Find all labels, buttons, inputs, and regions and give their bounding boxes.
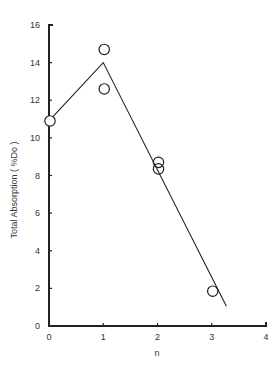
data-point — [208, 286, 218, 296]
data-point — [99, 44, 109, 54]
x-tick-label: 0 — [46, 332, 51, 342]
chart: 0246810121416 01234 n Total Absorption (… — [0, 0, 280, 370]
x-tick-label: 2 — [155, 332, 160, 342]
y-tick-label: 4 — [35, 246, 40, 256]
x-tick-label: 1 — [101, 332, 106, 342]
y-tick-label: 16 — [30, 20, 40, 30]
x-tick-label: 4 — [263, 332, 268, 342]
x-axis-title: n — [154, 348, 159, 358]
data-point — [99, 84, 109, 94]
y-tick-label: 6 — [35, 208, 40, 218]
y-tick-label: 10 — [30, 133, 40, 143]
y-tick-label: 8 — [35, 171, 40, 181]
y-tick-label: 0 — [35, 321, 40, 331]
y-tick-label: 14 — [30, 58, 40, 68]
data-points — [45, 44, 218, 296]
x-tick-label: 3 — [209, 332, 214, 342]
data-point — [45, 116, 55, 126]
y-tick-label: 2 — [35, 283, 40, 293]
fit-line — [49, 63, 226, 307]
y-tick-label: 12 — [30, 95, 40, 105]
y-axis-title: Total Absorption ( %Do ) — [9, 141, 19, 238]
